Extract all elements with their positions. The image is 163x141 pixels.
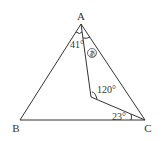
angle-label-bap: 41° <box>70 39 84 50</box>
angle-label-pcb: 23° <box>112 111 126 122</box>
angle-label-pac: あ <box>88 49 97 59</box>
triangle-diagram: A B C 41° あ 120° 23° <box>0 0 163 141</box>
svg-text:あ: あ <box>89 50 96 58</box>
vertex-label-c: C <box>144 122 151 134</box>
vertex-label-b: B <box>12 122 19 134</box>
angle-arc-pcb <box>131 114 132 120</box>
segment-ap <box>81 24 91 97</box>
vertex-label-a: A <box>77 10 85 22</box>
angle-label-apc: 120° <box>97 84 116 95</box>
angle-arc-bap <box>76 32 82 34</box>
angle-arc-pac <box>83 37 90 38</box>
side-ac <box>81 24 145 120</box>
